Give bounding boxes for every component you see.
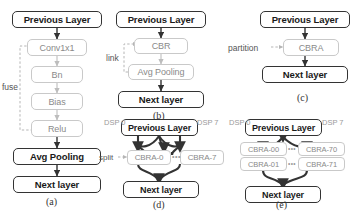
node-label: Previous Layer xyxy=(128,123,191,133)
node-label: Previous Layer xyxy=(252,123,315,133)
figure-canvas: Previous Layer Conv1x1 Bn Bias Relu Avg … xyxy=(0,0,362,217)
caption-a: (a) xyxy=(46,196,57,207)
node-a-next-layer[interactable]: Next layer xyxy=(13,176,101,193)
node-label: CBRA-01 xyxy=(248,160,279,169)
ellipsis-d: ••• xyxy=(172,153,181,160)
node-c-cbra[interactable]: CBRA xyxy=(283,39,339,56)
label-d-dsp-right: DSP 7 xyxy=(197,118,219,127)
node-label: Next layer xyxy=(283,69,327,80)
node-a-bias[interactable]: Bias xyxy=(31,93,83,110)
node-e-cbra-00[interactable]: CBRA-00 xyxy=(240,142,287,156)
node-b-previous-layer[interactable]: Previous Layer xyxy=(116,11,206,28)
node-e-previous-layer[interactable]: Previous Layer xyxy=(245,119,322,136)
node-label: CBR xyxy=(152,41,171,51)
node-c-previous-layer[interactable]: Previous Layer xyxy=(260,11,350,28)
node-e-cbra-70[interactable]: CBRA-70 xyxy=(298,142,345,156)
node-a-bn[interactable]: Bn xyxy=(31,66,83,83)
node-label: Previous Layer xyxy=(24,14,91,25)
dsp-text: DSP 0 xyxy=(229,118,251,127)
annotation-label: split xyxy=(99,153,113,162)
node-label: CBRA-00 xyxy=(248,145,279,154)
dsp-text: DSP 7 xyxy=(197,118,219,127)
node-b-avg-pooling[interactable]: Avg Pooling xyxy=(128,64,194,80)
label-e-dsp-right: DSP 7 xyxy=(322,118,344,127)
label-d-dsp-left: DSP 0 xyxy=(104,118,126,127)
node-label: Next layer xyxy=(262,190,304,200)
node-d-next-layer[interactable]: Next layer xyxy=(123,181,199,198)
node-label: CBRA-7 xyxy=(188,153,217,162)
caption-text: (e) xyxy=(276,199,287,210)
node-e-cbra-71[interactable]: CBRA-71 xyxy=(298,157,345,171)
node-label: CBRA xyxy=(299,43,324,53)
annotation-split: split xyxy=(99,153,113,162)
node-label: Next layer xyxy=(140,185,182,195)
caption-text: (d) xyxy=(153,199,165,210)
node-label: Bias xyxy=(48,97,65,107)
caption-text: (c) xyxy=(297,92,308,103)
annotation-partition: partition xyxy=(228,43,258,53)
node-label: Next layer xyxy=(139,94,183,105)
label-e-dsp-left: DSP 0 xyxy=(229,118,251,127)
node-d-cbra-0[interactable]: CBRA-0 xyxy=(127,150,171,165)
annotation-label: partition xyxy=(228,43,258,53)
node-label: Bn xyxy=(52,70,63,80)
caption-text: (a) xyxy=(46,196,57,207)
dsp-text: DSP 7 xyxy=(322,118,344,127)
annotation-label: fuse xyxy=(2,82,18,92)
ellipsis-e-bottom: ••• xyxy=(288,160,296,167)
node-label: Next layer xyxy=(35,179,79,190)
node-a-previous-layer[interactable]: Previous Layer xyxy=(12,11,102,28)
node-label: Conv1x1 xyxy=(40,43,75,53)
node-b-cbr[interactable]: CBR xyxy=(134,38,188,54)
caption-e: (e) xyxy=(276,199,287,210)
node-label: Previous Layer xyxy=(272,14,339,25)
caption-c: (c) xyxy=(297,92,308,103)
node-a-relu[interactable]: Relu xyxy=(31,120,83,137)
caption-d: (d) xyxy=(153,199,165,210)
node-a-conv1x1[interactable]: Conv1x1 xyxy=(27,39,87,56)
annotation-link: link xyxy=(106,53,119,63)
node-d-cbra-7[interactable]: CBRA-7 xyxy=(180,150,224,165)
node-d-previous-layer[interactable]: Previous Layer xyxy=(121,119,198,136)
node-label: CBRA-70 xyxy=(306,145,337,154)
node-label: Avg Pooling xyxy=(30,151,84,162)
node-label: Relu xyxy=(48,124,66,134)
ellipsis-text: ••• xyxy=(172,153,181,160)
node-b-next-layer[interactable]: Next layer xyxy=(118,91,204,108)
ellipsis-text: ••• xyxy=(288,145,296,152)
node-label: CBRA-71 xyxy=(306,160,337,169)
ellipsis-text: ••• xyxy=(288,160,296,167)
node-label: CBRA-0 xyxy=(135,153,164,162)
node-label: Previous Layer xyxy=(128,14,195,25)
node-a-avg-pooling[interactable]: Avg Pooling xyxy=(13,148,101,165)
node-e-cbra-01[interactable]: CBRA-01 xyxy=(240,157,287,171)
annotation-fuse: fuse xyxy=(2,82,18,92)
node-c-next-layer[interactable]: Next layer xyxy=(262,66,348,83)
ellipsis-e-top: ••• xyxy=(288,145,296,152)
annotation-label: link xyxy=(106,53,119,63)
node-label: Avg Pooling xyxy=(138,67,185,77)
dsp-text: DSP 0 xyxy=(104,118,126,127)
